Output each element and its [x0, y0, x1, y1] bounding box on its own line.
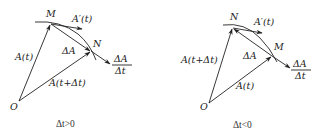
vector-a-t-plus-dt [209, 29, 232, 103]
caption-dt-positive: Δt>0 [56, 119, 75, 129]
point-m-label: M [45, 8, 56, 19]
label-quotient-numerator: ΔA [113, 53, 128, 64]
label-a-t-plus-dt: A(t+Δt) [180, 54, 218, 65]
label-delta-a: ΔA [61, 45, 76, 56]
label-derivative: A′(t) [253, 16, 275, 27]
point-origin-label: O [10, 101, 18, 112]
point-origin-label: O [200, 101, 208, 112]
label-a-t-plus-dt: A(t+Δt) [48, 77, 86, 88]
vector-derivative-figure: O M N A(t) A(t+Δt) ΔA A′(t) ΔA Δt Δt>0 O… [0, 0, 323, 134]
vector-quotient [91, 51, 110, 64]
caption-dt-negative: Δt<0 [233, 120, 252, 130]
label-quotient-denominator: Δt [114, 65, 126, 76]
point-n-label: N [92, 38, 102, 49]
label-quotient-denominator: Δt [294, 70, 306, 81]
point-m-label: M [273, 41, 284, 52]
label-quotient-numerator: ΔA [292, 58, 307, 69]
vector-quotient [272, 56, 290, 68]
label-delta-a: ΔA [242, 50, 257, 61]
vector-derivative [51, 24, 82, 29]
label-derivative: A′(t) [71, 13, 93, 24]
vector-a-t [19, 25, 50, 101]
diagram-dt-positive: O M N A(t) A(t+Δt) ΔA A′(t) ΔA Δt Δt>0 [10, 8, 132, 129]
diagram-dt-negative: O N M A(t+Δt) A(t) ΔA A′(t) ΔA Δt Δt<0 [180, 11, 311, 130]
label-a-t: A(t) [14, 51, 33, 62]
label-a-t: A(t) [235, 80, 254, 91]
point-n-label: N [229, 11, 239, 22]
